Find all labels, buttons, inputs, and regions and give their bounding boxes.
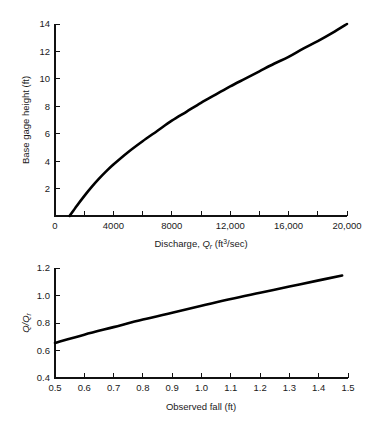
x-axis-title-top: Discharge, Qr (ft3/sec) xyxy=(154,238,247,250)
x-axis-title-bottom: Observed fall (ft) xyxy=(166,401,236,412)
xtick-label: 0.6 xyxy=(78,382,91,393)
ytick-label: 1.0 xyxy=(37,290,50,301)
fall-ratio-svg: 1.2 1.0 0.8 0.6 0.4 0.5 xyxy=(0,260,370,430)
ytick-label: 12 xyxy=(39,46,50,57)
chart-panel-fall-ratio: 1.2 1.0 0.8 0.6 0.4 0.5 xyxy=(0,260,370,425)
xtick-label: 16,000 xyxy=(274,220,303,231)
ytick-label: 2 xyxy=(45,183,50,194)
xtick-label: 1.1 xyxy=(224,382,237,393)
y-ticklabels-top: 14 12 10 8 6 4 2 xyxy=(39,18,50,194)
axis-lines-top xyxy=(55,24,347,216)
axes-group-top xyxy=(55,24,347,216)
ytick-label: 4 xyxy=(45,156,50,167)
x-ticklabels-top: 0 4000 8000 12,000 16,000 20,000 xyxy=(52,220,361,231)
xtick-label: 1.3 xyxy=(283,382,296,393)
xtick-label: 0 xyxy=(52,220,57,231)
chart-panel-rating-curve: 14 12 10 8 6 4 2 xyxy=(0,0,370,265)
ytick-label: 8 xyxy=(45,101,50,112)
ytick-label: 0.6 xyxy=(37,345,50,356)
xtick-label: 20,000 xyxy=(332,220,361,231)
xtick-label: 1.2 xyxy=(253,382,266,393)
ytick-label: 0.8 xyxy=(37,317,50,328)
ytick-label: 14 xyxy=(39,18,50,29)
x-ticks-top xyxy=(55,211,318,216)
xtick-label: 0.8 xyxy=(136,382,149,393)
x-ticklabels-bottom: 0.5 0.6 0.7 0.8 0.9 1.0 1.1 1.2 1.3 1.4 … xyxy=(48,382,354,393)
ytick-label: 1.2 xyxy=(37,262,50,273)
x-axis-title-lead: Discharge, xyxy=(154,238,202,249)
y-ticks-top xyxy=(55,51,60,188)
y-axis-title-bottom: Q/Qr xyxy=(20,312,32,332)
x-axis-title-unit-close: /sec) xyxy=(227,238,248,249)
ytick-label: 10 xyxy=(39,73,50,84)
figure-two-panel-rating-curves: 14 12 10 8 6 4 2 xyxy=(0,0,370,430)
xtick-label: 0.7 xyxy=(107,382,120,393)
xtick-label: 1.0 xyxy=(195,382,208,393)
data-series-rating-curve xyxy=(70,24,347,216)
xtick-label: 1.5 xyxy=(341,382,354,393)
x-axis-title-unit-open: (ft xyxy=(212,238,223,249)
y-axis-title-den-sub: r xyxy=(25,312,32,315)
xtick-label: 0.5 xyxy=(48,382,61,393)
xtick-label: 12,000 xyxy=(216,220,245,231)
ytick-label: 6 xyxy=(45,128,50,139)
x-ticks-bottom xyxy=(55,373,319,378)
rating-curve-svg: 14 12 10 8 6 4 2 xyxy=(0,0,370,265)
xtick-label: 8000 xyxy=(161,220,182,231)
y-axis-title-top: Base gage height (ft) xyxy=(20,76,31,164)
xtick-label: 4000 xyxy=(103,220,124,231)
xtick-label: 0.9 xyxy=(166,382,179,393)
data-series-fall-ratio xyxy=(55,276,342,343)
xtick-label: 1.4 xyxy=(312,382,325,393)
y-ticklabels-bottom: 1.2 1.0 0.8 0.6 0.4 xyxy=(37,262,50,383)
